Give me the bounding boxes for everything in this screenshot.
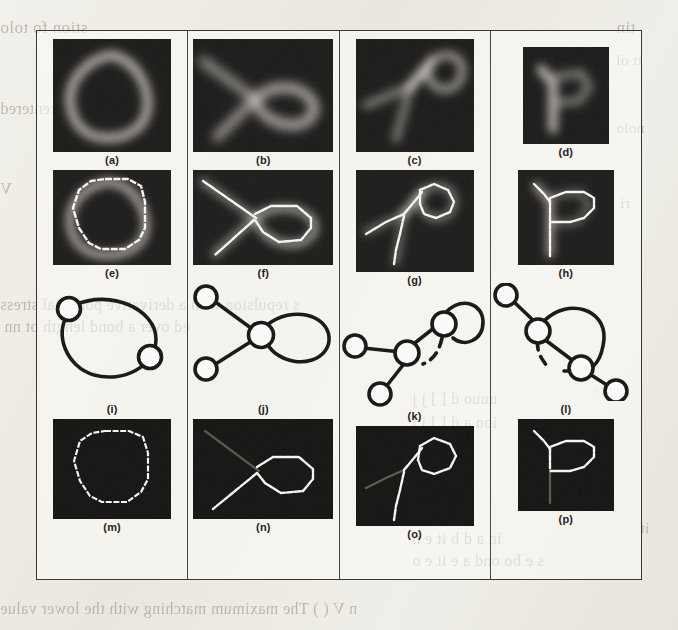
panel-a-caption: (a) xyxy=(105,154,119,166)
panel-h-caption: (h) xyxy=(559,267,574,279)
panel-l: (l) xyxy=(491,283,641,415)
panel-g: (g) xyxy=(340,166,490,286)
panel-f-image xyxy=(193,170,333,265)
panel-o: (o) xyxy=(340,422,490,540)
panel-i: (i) xyxy=(37,283,187,415)
panel-i-diagram xyxy=(38,283,186,401)
panel-d: (d) xyxy=(491,31,641,158)
panel-b: (b) xyxy=(188,31,338,166)
panel-i-caption: (i) xyxy=(107,403,118,415)
panel-p-image xyxy=(518,419,614,511)
panel-c-caption: (c) xyxy=(408,154,422,166)
panel-m: (m) xyxy=(37,415,187,533)
panel-n: (n) xyxy=(188,415,338,533)
figure-column-3: (c) xyxy=(340,31,491,579)
panel-e-image xyxy=(53,170,171,265)
figure-column-4: (d) (h) xyxy=(491,31,641,579)
panel-o-image xyxy=(356,426,474,526)
panel-m-caption: (m) xyxy=(103,521,121,533)
figure-frame: (a) (e) xyxy=(36,30,642,580)
bleed-text-14: n V ( ) The maximum matching with the lo… xyxy=(0,600,357,618)
panel-b-image xyxy=(193,39,333,152)
panel-k-diagram xyxy=(341,290,489,408)
panel-c: (c) xyxy=(340,31,490,166)
panel-l-caption: (l) xyxy=(560,403,571,415)
panel-n-caption: (n) xyxy=(256,521,271,533)
panel-k: (k) xyxy=(340,290,490,422)
panel-g-image xyxy=(356,170,474,272)
panel-f: (f) xyxy=(188,166,338,279)
panel-j-diagram xyxy=(189,283,337,401)
panel-a: (a) xyxy=(37,31,187,166)
panel-d-image xyxy=(523,47,609,144)
panel-h: (h) xyxy=(491,158,641,279)
panel-l-diagram xyxy=(492,283,640,401)
panel-b-caption: (b) xyxy=(256,154,271,166)
panel-e-caption: (e) xyxy=(105,267,119,279)
bleed-text-5: V xyxy=(0,180,12,198)
panel-m-image xyxy=(53,419,171,519)
panel-o-caption: (o) xyxy=(407,528,422,540)
panel-e: (e) xyxy=(37,166,187,279)
panel-p: (p) xyxy=(491,415,641,525)
panel-n-image xyxy=(193,419,333,519)
panel-g-caption: (g) xyxy=(407,274,422,286)
panel-j-caption: (j) xyxy=(258,403,269,415)
figure-column-2: (b) xyxy=(188,31,339,579)
panel-c-image xyxy=(356,39,474,152)
panel-h-image xyxy=(518,170,614,265)
panel-p-caption: (p) xyxy=(559,513,574,525)
panel-j: (j) xyxy=(188,283,338,415)
panel-k-caption: (k) xyxy=(408,410,422,422)
panel-d-caption: (d) xyxy=(559,146,574,158)
panel-f-caption: (f) xyxy=(258,267,270,279)
panel-a-image xyxy=(53,39,171,152)
figure-column-1: (a) (e) xyxy=(37,31,188,579)
